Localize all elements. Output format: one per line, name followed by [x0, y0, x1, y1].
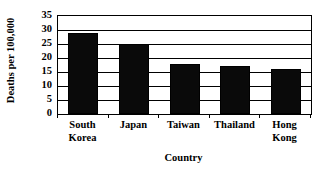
y-axis-title: Deaths per 100,000 [0, 0, 22, 120]
x-axis-tick-mark [310, 114, 311, 118]
x-axis-category-label-line: South [57, 118, 108, 131]
x-axis-category-label-line: Korea [57, 131, 108, 144]
x-axis-tick-mark [108, 114, 109, 118]
x-axis-category-label: Taiwan [158, 118, 209, 131]
x-axis-category-label: HongKong [259, 118, 310, 144]
bar [119, 44, 149, 114]
bar [220, 66, 250, 114]
y-axis-tick-label: 20 [42, 52, 53, 63]
x-axis-category-label-line: Taiwan [158, 118, 209, 131]
y-axis-tick-label: 0 [47, 108, 52, 119]
bar [271, 69, 301, 114]
x-axis-tick-mark [158, 114, 159, 118]
x-axis-tick-mark [259, 114, 260, 118]
x-axis-tick-mark [209, 114, 210, 118]
y-axis-tick-label: 10 [42, 80, 53, 91]
gridline [58, 30, 311, 31]
x-axis-title: Country [57, 152, 310, 163]
x-axis-category-label-line: Thailand [209, 118, 260, 131]
y-axis-tick-labels: 05101520253035 [22, 8, 55, 120]
x-axis-category-label-line: Hong [259, 118, 310, 131]
x-axis-category-label: SouthKorea [57, 118, 108, 144]
y-axis-tick-label: 30 [42, 24, 53, 35]
y-axis-title-text: Deaths per 100,000 [6, 17, 17, 102]
x-axis-tick-mark [57, 114, 58, 118]
y-axis-tick-label: 15 [42, 66, 53, 77]
y-axis-tick-label: 5 [47, 94, 52, 105]
bar-chart: Deaths per 100,000 05101520253035 SouthK… [0, 0, 323, 173]
x-axis-category-label-line: Kong [259, 131, 310, 144]
x-axis-category-labels: SouthKoreaJapanTaiwanThailandHongKong [57, 118, 310, 152]
bar [170, 64, 200, 114]
plot-area [57, 15, 312, 115]
x-axis-category-label: Thailand [209, 118, 260, 131]
x-axis-category-label-line: Japan [108, 118, 159, 131]
y-axis-tick-label: 35 [42, 10, 53, 21]
y-axis-tick-label: 25 [42, 38, 53, 49]
bar [68, 33, 98, 114]
x-axis-category-label: Japan [108, 118, 159, 131]
